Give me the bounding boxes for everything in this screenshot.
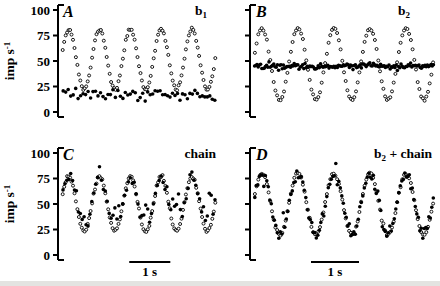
svg-text:1 s: 1 s [142,264,157,279]
svg-text:75: 75 [37,171,51,186]
condition-label-b1: b1 [195,3,207,20]
svg-text:0: 0 [44,248,51,263]
panel-A: 0255075100 imp s-1 A b1 [0,0,220,143]
panel-A-plot: 0255075100 [0,0,220,143]
scan-artifact-strip [0,281,440,286]
svg-text:100: 100 [31,3,51,18]
condition-label-b2-chain: b2 + chain [374,146,432,163]
condition-label-chain: chain [184,146,216,163]
panel-C: 02550751001 s imp s-1 C chain [0,143,220,286]
panel-B-plot [220,0,440,143]
panel-letter-A: A [63,3,74,21]
y-axis-exponent: -1 [2,185,12,193]
panel-letter-D: D [256,146,268,164]
svg-text:100: 100 [31,146,51,161]
y-axis-exponent: -1 [2,42,12,50]
svg-text:1 s: 1 s [328,264,343,279]
panel-C-plot: 02550751001 s [0,143,220,286]
svg-text:25: 25 [37,79,51,94]
panel-D: 1 s D b2 + chain [220,143,440,286]
y-axis-label: imp s-1 [2,185,18,224]
svg-text:0: 0 [44,105,51,120]
svg-text:25: 25 [37,222,51,237]
four-panel-scatter-figure: 0255075100 imp s-1 A b1 B b2 02550751001… [0,0,440,286]
panel-B: B b2 [220,0,440,143]
svg-text:75: 75 [37,28,51,43]
panel-letter-B: B [256,3,267,21]
svg-text:50: 50 [37,54,50,69]
svg-text:50: 50 [37,197,50,212]
panel-letter-C: C [63,146,74,164]
condition-label-b2: b2 [398,3,410,20]
panel-D-plot: 1 s [220,143,440,286]
y-axis-label: imp s-1 [2,42,18,81]
